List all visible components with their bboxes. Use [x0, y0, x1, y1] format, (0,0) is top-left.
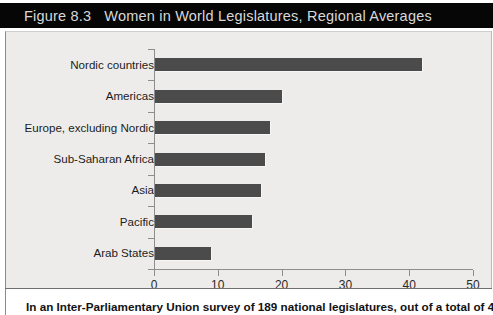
- chart-frame-right-edge: [491, 31, 492, 288]
- y-axis-category-label: Arab States: [93, 246, 154, 259]
- figure-caption: In an Inter-Parliamentary Union survey o…: [26, 300, 486, 313]
- y-axis-category-label: Nordic countries: [70, 58, 154, 71]
- x-axis-tick: [473, 270, 474, 276]
- y-axis-category-label: Pacific: [120, 215, 154, 228]
- bar: [155, 247, 211, 260]
- bar: [155, 215, 252, 228]
- x-axis-tick: [282, 270, 283, 276]
- y-axis-tick: [148, 112, 154, 113]
- y-axis-tick: [148, 206, 154, 207]
- x-axis-line: [154, 269, 473, 270]
- y-axis-tick: [148, 175, 154, 176]
- bar-chart-plot: Nordic countriesAmericasEurope, excludin…: [6, 32, 493, 289]
- y-axis-category-label: Asia: [131, 183, 154, 196]
- figure-container: Figure 8.3Women in World Legislatures, R…: [0, 0, 493, 315]
- bar: [155, 121, 270, 134]
- figure-title-bar: Figure 8.3Women in World Legislatures, R…: [0, 3, 493, 28]
- y-axis-category-label: Sub-Saharan Africa: [53, 152, 154, 165]
- chart-frame: Nordic countriesAmericasEurope, excludin…: [5, 31, 492, 288]
- x-axis-tick: [409, 270, 410, 276]
- y-axis-tick: [148, 143, 154, 144]
- figure-caption-area: In an Inter-Parliamentary Union survey o…: [5, 289, 492, 315]
- bar: [155, 153, 265, 166]
- x-axis-tick: [154, 270, 155, 276]
- x-axis-tick: [218, 270, 219, 276]
- y-axis-category-label: Europe, excluding Nordic: [24, 121, 154, 134]
- y-axis-tick: [148, 80, 154, 81]
- y-axis-category-label: Americas: [106, 89, 154, 102]
- figure-title-text: Women in World Legislatures, Regional Av…: [104, 8, 432, 24]
- figure-number: Figure 8.3: [24, 8, 91, 24]
- bar: [155, 90, 282, 103]
- y-axis-tick: [148, 49, 154, 50]
- x-axis-tick: [345, 270, 346, 276]
- bar: [155, 184, 261, 197]
- figure-title: Figure 8.3Women in World Legislatures, R…: [0, 8, 432, 24]
- y-axis-tick: [148, 238, 154, 239]
- bar: [155, 58, 422, 71]
